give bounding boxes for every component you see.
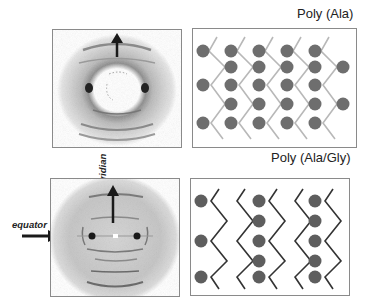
poly-ala-title: Poly (Ala) (297, 6, 353, 21)
poly-ala-diffraction-panel (52, 29, 182, 148)
poly-ala-model-panel (192, 28, 357, 148)
poly-ala-diffraction-pattern (53, 30, 181, 147)
poly-ala-gly-diffraction-pattern (51, 179, 179, 296)
poly-ala-gly-chains (211, 189, 341, 289)
poly-ala-gly-model-panel (190, 178, 350, 296)
poly-ala-gly-title: Poly (Ala/Gly) (271, 150, 350, 165)
poly-ala-gly-diffraction-panel (50, 178, 180, 297)
poly-ala-gly-sheet-model (191, 179, 349, 295)
poly-ala-sheet-model (193, 29, 356, 147)
